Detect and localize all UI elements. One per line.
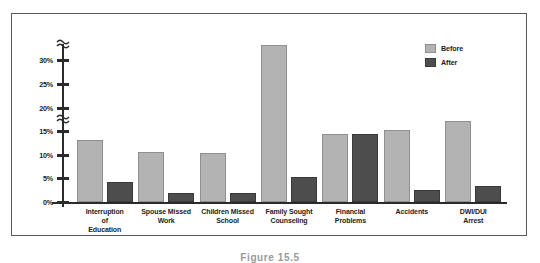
bar-after[interactable] xyxy=(168,193,194,202)
legend-item-before: Before xyxy=(425,44,515,53)
bar-before[interactable] xyxy=(445,121,471,202)
figure-frame: 30% 25% 20% 15% 10% 5% 0% xyxy=(11,13,527,236)
legend-swatch-after-icon xyxy=(425,58,436,67)
bar-after[interactable] xyxy=(352,134,378,202)
legend-label-after: After xyxy=(441,58,457,67)
bar-after[interactable] xyxy=(230,193,256,202)
chart-legend: Before After xyxy=(425,44,515,72)
bar-after[interactable] xyxy=(414,190,440,202)
category-label-line: DWI/DUI xyxy=(436,207,510,216)
bar-after[interactable] xyxy=(475,186,501,202)
bar-after[interactable] xyxy=(107,182,133,202)
category-label-line: Education xyxy=(68,225,142,234)
bar-before[interactable] xyxy=(77,140,103,202)
bar-before[interactable] xyxy=(322,134,348,202)
category-label-line: Problems xyxy=(313,216,387,225)
bar-after[interactable] xyxy=(291,177,317,202)
legend-swatch-before-icon xyxy=(425,44,436,53)
bar-before[interactable] xyxy=(138,152,164,202)
category-label-line: Arrest xyxy=(436,216,510,225)
bar-before[interactable] xyxy=(261,45,287,202)
figure-caption: Figure 15.5 xyxy=(0,252,540,263)
legend-item-after: After xyxy=(425,58,515,67)
bar-before[interactable] xyxy=(384,130,410,202)
category-label: DWI/DUIArrest xyxy=(436,207,510,225)
legend-label-before: Before xyxy=(441,44,463,53)
bar-before[interactable] xyxy=(200,153,226,202)
